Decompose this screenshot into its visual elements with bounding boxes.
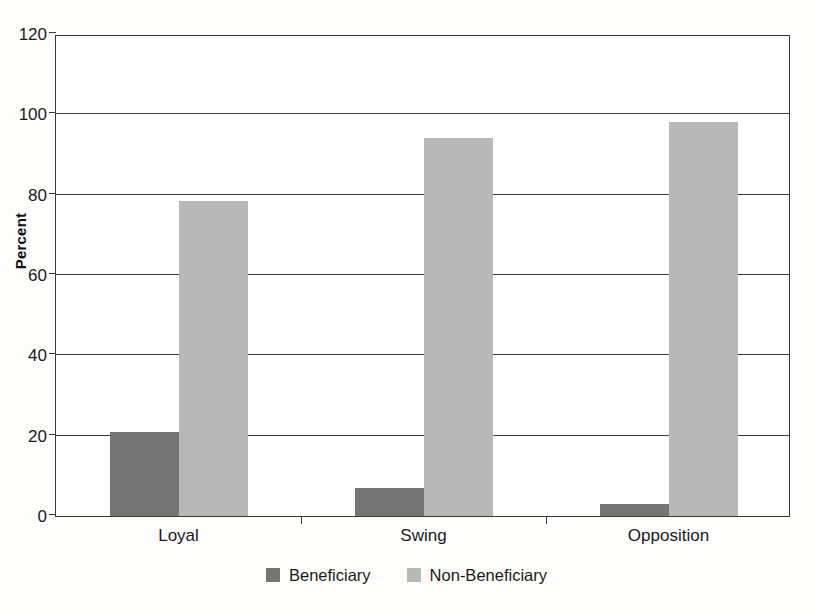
y-tick-label-0: 0 bbox=[38, 508, 47, 525]
y-tick-mark-40 bbox=[49, 353, 56, 354]
y-tick-mark-20 bbox=[49, 434, 56, 435]
legend-item-beneficiary[interactable]: Beneficiary bbox=[266, 567, 371, 584]
x-category-label-loyal: Loyal bbox=[158, 527, 199, 544]
chart-legend: BeneficiaryNon-Beneficiary bbox=[0, 567, 813, 584]
chart-figure: Percent 020406080100120 LoyalSwingOpposi… bbox=[0, 0, 813, 615]
x-tick-mark-1 bbox=[301, 516, 302, 524]
plot-area: 020406080100120 LoyalSwingOpposition bbox=[55, 35, 790, 517]
y-tick-mark-100 bbox=[49, 112, 56, 113]
gridline-100 bbox=[56, 113, 789, 114]
y-axis-label: Percent bbox=[12, 213, 29, 269]
bar-opposition-non-beneficiary bbox=[669, 122, 738, 516]
y-tick-mark-80 bbox=[49, 193, 56, 194]
legend-label: Non-Beneficiary bbox=[430, 567, 547, 584]
legend-swatch-icon bbox=[407, 568, 421, 582]
y-tick-label-40: 40 bbox=[28, 347, 47, 364]
x-category-label-opposition: Opposition bbox=[628, 527, 709, 544]
bar-opposition-beneficiary bbox=[600, 504, 669, 516]
y-tick-label-80: 80 bbox=[28, 186, 47, 203]
y-tick-mark-60 bbox=[49, 273, 56, 274]
bar-loyal-non-beneficiary bbox=[179, 201, 248, 516]
bar-swing-beneficiary bbox=[355, 488, 424, 516]
y-tick-label-100: 100 bbox=[19, 106, 47, 123]
y-tick-mark-0 bbox=[49, 514, 56, 515]
y-tick-label-60: 60 bbox=[28, 267, 47, 284]
y-tick-label-20: 20 bbox=[28, 427, 47, 444]
x-tick-mark-2 bbox=[546, 516, 547, 524]
x-category-label-swing: Swing bbox=[400, 527, 446, 544]
legend-item-non-beneficiary[interactable]: Non-Beneficiary bbox=[407, 567, 547, 584]
bar-swing-non-beneficiary bbox=[424, 138, 493, 516]
y-tick-label-120: 120 bbox=[19, 26, 47, 43]
legend-swatch-icon bbox=[266, 568, 280, 582]
y-tick-mark-120 bbox=[49, 32, 56, 33]
bar-loyal-beneficiary bbox=[110, 432, 179, 516]
legend-label: Beneficiary bbox=[289, 567, 371, 584]
